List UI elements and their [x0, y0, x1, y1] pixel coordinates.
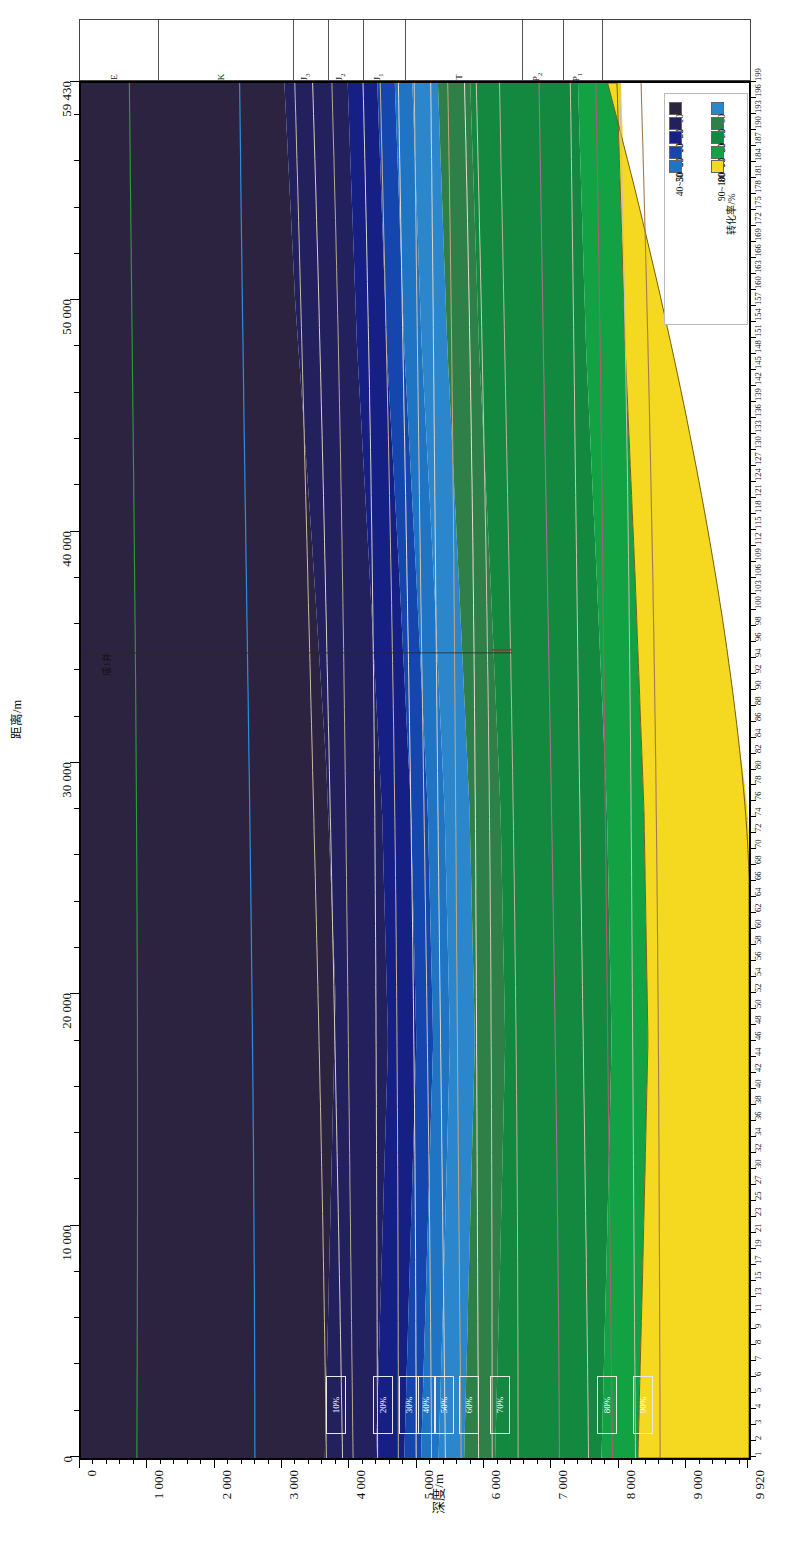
- depth-minor-tick: [92, 1460, 93, 1464]
- depth-tick-label: 5 000: [421, 1470, 437, 1499]
- depth-minor-tick: [200, 1460, 201, 1464]
- depth-minor-tick: [443, 1460, 444, 1464]
- grid-index-label: 8: [753, 1340, 763, 1344]
- depth-minor-tick: [389, 1460, 390, 1464]
- grid-index-tick: [751, 1024, 756, 1025]
- grid-index-tick: [751, 1168, 756, 1169]
- strata-label: J1: [373, 73, 385, 80]
- grid-index-tick: [751, 912, 756, 913]
- strata-cell-J2: J2: [329, 20, 364, 80]
- grid-index-label: 9: [753, 1324, 763, 1328]
- grid-index-label: 62: [753, 904, 763, 913]
- grid-index-tick: [751, 1440, 756, 1441]
- grid-index-label: 115: [753, 516, 763, 528]
- grid-index-label: 151: [753, 324, 763, 337]
- grid-index-tick: [751, 145, 756, 146]
- contour-label-text: 50%: [439, 1397, 449, 1414]
- distance-axis: 距离/m 010 00020 00030 00040 00050 00059 4…: [0, 81, 79, 1460]
- grid-index-label: 72: [753, 824, 763, 833]
- grid-index-tick: [751, 944, 756, 945]
- grid-index-label: 15: [753, 1272, 763, 1281]
- grid-index-tick: [751, 1152, 756, 1153]
- depth-tick-label: 7 000: [555, 1470, 571, 1499]
- contour-label-text: 90%: [638, 1397, 648, 1414]
- grid-index-label: 166: [753, 244, 763, 257]
- grid-index-tick: [751, 1120, 756, 1121]
- grid-index-label: 127: [753, 452, 763, 465]
- legend-label: 40~50: [675, 172, 685, 196]
- depth-major-tick: [348, 1460, 349, 1468]
- grid-index-label: 103: [753, 580, 763, 593]
- strata-label: K: [216, 74, 226, 81]
- grid-index-tick: [751, 241, 756, 242]
- legend-swatch: [711, 146, 724, 159]
- grid-index-label: 76: [753, 792, 763, 801]
- grid-index-label: 34: [753, 1128, 763, 1137]
- grid-index-label: 48: [753, 1016, 763, 1025]
- grid-index-tick: [751, 960, 756, 961]
- distance-tick-label: 30 000: [59, 762, 75, 798]
- legend-label: 90~100: [717, 172, 727, 201]
- depth-tick-label: 8 000: [623, 1470, 639, 1499]
- grid-index-tick: [751, 273, 756, 274]
- grid-index-label: 90: [753, 680, 763, 689]
- grid-index-label: 68: [753, 856, 763, 865]
- grid-index-tick: [751, 129, 756, 130]
- strata-label: J3: [299, 73, 311, 80]
- grid-index-label: 157: [753, 292, 763, 305]
- depth-minor-tick: [375, 1460, 376, 1464]
- grid-index-tick: [751, 209, 756, 210]
- grid-index-label: 96: [753, 632, 763, 641]
- contour-label-text: 60%: [464, 1397, 474, 1414]
- distance-tick-label: 20 000: [59, 993, 75, 1029]
- depth-minor-tick: [173, 1460, 174, 1464]
- grid-index-tick: [751, 1184, 756, 1185]
- contour-label-text: 20%: [378, 1397, 388, 1414]
- depth-minor-tick: [564, 1460, 565, 1464]
- strata-cell-blank: [603, 20, 750, 80]
- grid-index-label: 44: [753, 1048, 763, 1057]
- grid-index-label: 78: [753, 776, 763, 785]
- strata-cell-E: E: [80, 20, 159, 80]
- grid-index-tick: [751, 1360, 756, 1361]
- grid-index-label: 154: [753, 308, 763, 321]
- depth-axis: 深度/m 01 0002 0003 0004 0005 0006 0007 00…: [79, 1460, 751, 1544]
- grid-index-label: 7: [753, 1356, 763, 1360]
- depth-major-tick: [483, 1460, 484, 1468]
- legend-swatch: [669, 117, 682, 130]
- depth-minor-tick: [699, 1460, 700, 1464]
- grid-index-label: 66: [753, 872, 763, 881]
- grid-index-tick: [751, 225, 756, 226]
- distance-tick-label: 50 000: [59, 299, 75, 335]
- strata-label: J2: [334, 73, 346, 80]
- grid-index-tick: [751, 1232, 756, 1233]
- grid-index-tick: [751, 784, 756, 785]
- grid-index-label: 19: [753, 1240, 763, 1249]
- grid-index-label: 82: [753, 744, 763, 753]
- depth-minor-tick: [241, 1460, 242, 1464]
- depth-minor-tick: [537, 1460, 538, 1464]
- grid-index-label: 133: [753, 420, 763, 433]
- grid-index-tick: [751, 113, 756, 114]
- well-label: 成1井: [100, 653, 113, 676]
- grid-index-tick: [751, 1248, 756, 1249]
- depth-minor-tick: [712, 1460, 713, 1464]
- depth-minor-tick: [308, 1460, 309, 1464]
- grid-index-tick: [751, 1136, 756, 1137]
- contour-label-70pct: 70%: [490, 1376, 510, 1434]
- legend-swatch: [669, 146, 682, 159]
- contour-label-text: 10%: [331, 1397, 341, 1414]
- depth-minor-tick: [402, 1460, 403, 1464]
- grid-index-label: 21: [753, 1224, 763, 1233]
- grid-index-label: 163: [753, 260, 763, 273]
- grid-index-label: 175: [753, 196, 763, 209]
- depth-minor-tick: [739, 1460, 740, 1464]
- legend-column-upper: 50~6060~7070~8080~9090~100: [709, 102, 739, 252]
- depth-minor-tick: [510, 1460, 511, 1464]
- depth-major-tick: [747, 1460, 748, 1468]
- grid-index-tick: [751, 896, 756, 897]
- contour-label-text: 80%: [602, 1397, 612, 1414]
- depth-major-tick: [146, 1460, 147, 1468]
- grid-index-tick: [751, 1104, 756, 1105]
- grid-index-label: 64: [753, 888, 763, 897]
